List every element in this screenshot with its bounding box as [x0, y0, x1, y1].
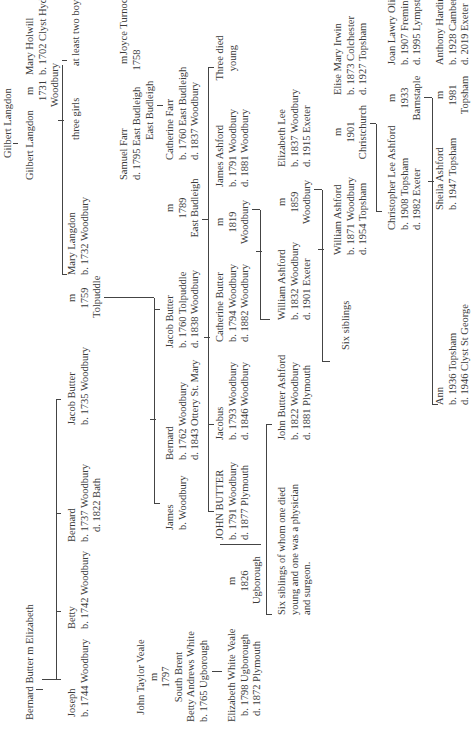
connector-line — [318, 249, 324, 250]
death-info: d. 1795 East Budleigh — [131, 87, 144, 180]
death-info: d. 1877 Plymouth — [239, 462, 252, 550]
connector-line — [150, 419, 156, 420]
marriage-butter-langdon: m 1759 Tolpuddle — [66, 278, 104, 318]
connector-line — [56, 679, 61, 680]
birth-info: b. 1908 Topsham — [399, 126, 412, 230]
connector-line — [56, 611, 61, 612]
connector-line — [256, 251, 262, 252]
person-jacob-butter: Jacob Butter b. 1735 Woodbury — [66, 347, 91, 425]
marriage-place: Barnstaple — [411, 72, 424, 124]
birth-info: b. 1907 Fremington — [399, 0, 412, 65]
birth-info: b. 1837 Woodbury — [289, 89, 302, 167]
death-info: d. 1881 Plymouth — [301, 355, 314, 440]
person-catherine-farr: Catherine Farr b. 1760 East Budleigh d. … — [164, 67, 202, 160]
death-info: d. 1846 Woodbury — [239, 362, 252, 440]
marriage-place: Christchurch — [357, 100, 370, 164]
person-mary-holwill: Mary Holwill b. 1702 Clyst Hydon — [24, 0, 49, 75]
person-joan-lawry-oliver: Joan Lawry Oliver b. 1907 Fremington d. … — [386, 0, 424, 65]
person-elise-mary-irwin: Elise Mary Irwin b. 1873 Colchester d. 1… — [332, 16, 370, 95]
note-line: Three died — [214, 26, 227, 90]
marriage-place: South Brent — [173, 632, 186, 722]
person-betty: Betty b. 1742 Woodbury — [66, 551, 91, 629]
birth-info: b. 1873 Colchester — [345, 16, 358, 95]
connector-line — [154, 503, 160, 504]
connector-line — [252, 209, 260, 210]
marriage-place-east-budleigh: East Budleigh — [144, 81, 157, 140]
person-name: Elise Mary Irwin — [332, 16, 345, 95]
connector-line — [260, 210, 261, 320]
person-name: Betty — [66, 551, 79, 629]
marriage-place: Tolpuddle — [91, 278, 104, 318]
person-william-ashford-sr: William Ashford b. 1832 Woodbury d. 1901… — [276, 242, 314, 320]
birth-info: b. 1742 Woodbury — [79, 551, 92, 629]
person-name: William Ashford — [332, 177, 345, 255]
person-name: Catherine Butter — [214, 264, 227, 342]
death-info: d. 1837 Woodbury — [189, 67, 202, 160]
death-info: d. 1946 Clyst St George — [459, 304, 472, 405]
connector-line — [432, 98, 433, 405]
birth-info: b. 1744 Woodbury — [79, 639, 92, 717]
marriage-symbol: m — [226, 558, 239, 604]
death-info: d. 1995 Lympstone — [411, 0, 424, 65]
person-name: Samuel Farr — [118, 87, 131, 180]
person-jacobus: Jacobus b. 1793 Woodbury d. 1846 Woodbur… — [214, 362, 252, 440]
birth-info: b. 1760 East Budleigh — [177, 67, 190, 160]
person-betty-andrews-white: Betty Andrews White b. 1765 Ugborough — [185, 631, 210, 722]
death-info: d. 1927 Topsham — [357, 16, 370, 95]
death-info: d. 1843 Ottery St. Mary — [189, 360, 202, 460]
marriage-place: Woodbury — [49, 81, 62, 107]
marriage-year: 1758 — [131, 30, 144, 90]
connector-line — [322, 361, 330, 362]
connector-line — [376, 211, 382, 212]
person-ann: Ann b. 1936 Topsham d. 1946 Clyst St Geo… — [434, 304, 472, 405]
marriage-year: 1981 — [447, 70, 460, 120]
marriage-butter-farr: m 1789 East Budleigh — [164, 176, 202, 240]
person-bernard-jr: Bernard b. 1762 Woodbury d. 1843 Ottery … — [164, 360, 202, 460]
person-bernard-butter-elizabeth: Bernard Butter m Elizabeth — [24, 604, 37, 720]
birth-info: b. 1793 Woodbury — [227, 362, 240, 440]
marriage-year: 1933 — [399, 72, 412, 124]
person-samuel-farr: Samuel Farr d. 1795 East Budleigh — [118, 87, 143, 180]
connector-line — [104, 297, 154, 298]
person-name: Jacobus — [214, 362, 227, 440]
person-christopher-lee-ashford: Christopher Lee Ashford b. 1908 Topsham … — [386, 126, 424, 230]
person-name: John Butter Ashford — [276, 355, 289, 440]
person-name: Sheila Ashford — [434, 138, 447, 210]
connector-line — [212, 671, 222, 672]
birth-info: b. 1735 Woodbury — [79, 347, 92, 425]
marriage-place: Ugborough — [251, 558, 264, 604]
marriage-symbol: m — [164, 176, 177, 240]
marriage-place: Woodbury — [301, 180, 314, 224]
connector-line — [17, 143, 18, 144]
person-name: Joan Lawry Oliver — [386, 0, 399, 65]
person-john-taylor-veale: John Taylor Veale m 1797 South Brent — [135, 632, 185, 722]
birth-info: b. 1765 Ugborough — [198, 631, 211, 722]
death-info: d. 2019 Exeter — [459, 0, 472, 65]
person-elizabeth-white-veale: Elizabeth White Veale b. 1798 Ugborough … — [226, 629, 264, 723]
connector-line — [314, 189, 322, 190]
birth-info: b. 1791 Woodbury — [227, 109, 240, 187]
connector-line — [208, 68, 209, 512]
connector-line — [42, 689, 43, 690]
note-line: Six siblings of whom one died — [276, 484, 289, 615]
marriage-symbol: m — [332, 100, 345, 164]
death-info: d. 1901 Exeter — [301, 242, 314, 320]
marriage-year: 1731 — [37, 81, 50, 101]
person-bernard: Bernard b. 1737 Woodbury d. 1822 Bath — [66, 464, 104, 542]
marriage-symbol: m — [386, 72, 399, 124]
marriage-place: East Budleigh — [189, 176, 202, 240]
connector-line — [56, 399, 61, 400]
person-gilbert-langdon-sr: Gilbert Langdon — [2, 88, 15, 158]
three-girls-label: three girls — [70, 98, 83, 140]
connector-line — [154, 309, 160, 310]
connector-line — [260, 319, 270, 320]
person-name: Elizabeth Lee — [276, 89, 289, 167]
person-james-ashford: James Ashford b. 1791 Woodbury d. 1881 W… — [214, 109, 252, 187]
connector-line — [154, 298, 155, 504]
death-info: d. 1882 Woodbury — [239, 264, 252, 342]
birth-info: b. 1794 Woodbury — [227, 264, 240, 342]
person-name: Betty Andrews White — [185, 631, 198, 722]
birth-info: b. 1936 Topsham — [447, 304, 460, 405]
marriage-ashford-irwin: m 1901 Christchurch — [332, 100, 370, 164]
death-info: d. 1872 Plymouth — [251, 629, 264, 723]
